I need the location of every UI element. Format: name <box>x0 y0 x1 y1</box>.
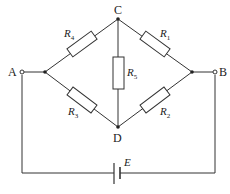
terminal-B <box>213 70 217 74</box>
label-D: D <box>113 132 122 144</box>
label-C: C <box>114 4 122 16</box>
resistor-R5 <box>113 57 124 89</box>
node-C-dot <box>116 17 120 21</box>
circuit-diagram <box>0 0 230 194</box>
label-R2: R2 <box>160 106 170 120</box>
node-right-dot <box>190 70 194 74</box>
label-B: B <box>219 66 227 78</box>
label-R5: R5 <box>127 67 137 81</box>
label-R4: R4 <box>64 28 74 42</box>
label-E: E <box>124 157 131 168</box>
node-D-dot <box>116 125 120 129</box>
node-left-dot <box>43 70 47 74</box>
label-R1: R1 <box>160 28 170 42</box>
label-R3: R3 <box>68 106 78 120</box>
label-A: A <box>8 66 17 78</box>
terminal-A <box>20 70 24 74</box>
